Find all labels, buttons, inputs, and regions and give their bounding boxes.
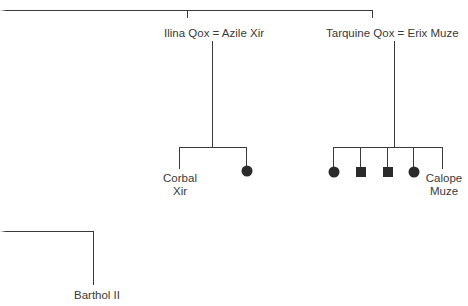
line-fade	[0, 230, 6, 234]
drop-line-tarquine	[372, 10, 373, 18]
corbal-line1: Corbal	[163, 172, 197, 184]
child-label-calope: Calope Muze	[426, 172, 462, 198]
female-symbol-icon	[328, 167, 339, 178]
male-symbol-icon	[356, 167, 366, 177]
female-symbol-icon	[241, 166, 252, 177]
child-leg-3	[387, 147, 388, 167]
couple-label-2: Tarquine Qox = Erix Muze	[326, 27, 459, 40]
male-symbol-icon	[383, 167, 393, 177]
child-leg-calope	[442, 147, 443, 169]
descent-line-couple-1	[212, 41, 213, 148]
child-leg-2	[360, 147, 361, 167]
child-leg-corbal	[179, 147, 180, 169]
couple-label-1: Ilina Qox = Azile Xir	[164, 27, 264, 40]
female-symbol-icon	[408, 167, 419, 178]
child-label-corbal: Corbal Xir	[163, 172, 197, 198]
lower-branch-line	[0, 231, 94, 232]
child-leg-1	[333, 147, 334, 167]
drop-line-ilina	[187, 10, 188, 18]
lower-branch-drop	[93, 231, 94, 285]
child-leg-4	[413, 147, 414, 167]
child-leg-female-1	[246, 147, 247, 167]
descent-line-couple-2	[394, 41, 395, 148]
calope-line2: Muze	[430, 185, 458, 197]
children-bar-couple-1	[179, 147, 247, 148]
barthol-label: Barthol II	[74, 289, 120, 302]
calope-line1: Calope	[426, 172, 462, 184]
line-fade	[0, 9, 6, 13]
corbal-line2: Xir	[173, 185, 187, 197]
